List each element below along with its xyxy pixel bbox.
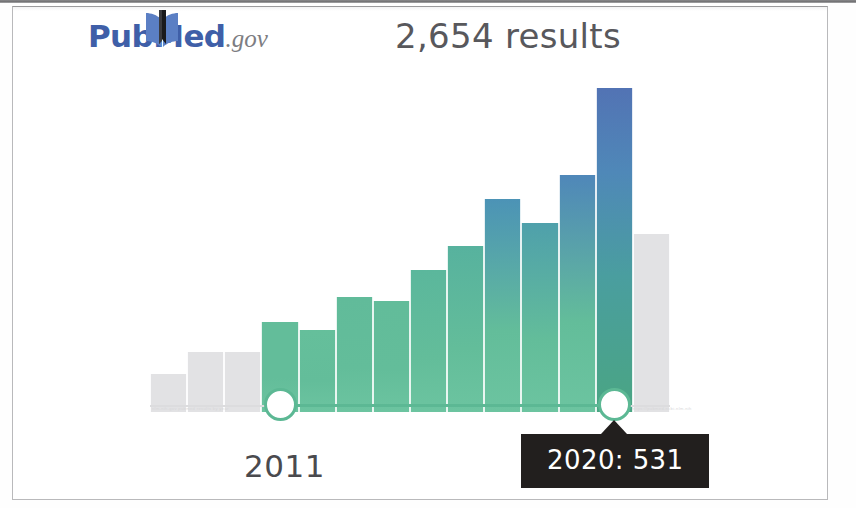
pubmed-logo-text: PubMed.gov bbox=[88, 21, 268, 52]
results-by-year-chart bbox=[150, 70, 670, 412]
screenshot-root: PubMed.gov 2,654 results nlm.nih.gov pub… bbox=[0, 0, 856, 508]
chart-bar[interactable] bbox=[521, 223, 558, 412]
bar-series bbox=[150, 70, 670, 412]
slider-start-year-label: 2011 bbox=[244, 448, 325, 484]
logo-gov-text: .gov bbox=[225, 25, 267, 52]
results-count-label: 2,654 results bbox=[395, 16, 621, 56]
tooltip-arrow-icon bbox=[601, 420, 627, 434]
chart-bar[interactable] bbox=[596, 88, 633, 412]
chart-bar[interactable] bbox=[299, 330, 336, 412]
chart-bar[interactable] bbox=[410, 270, 447, 412]
frame-shade bbox=[13, 7, 827, 11]
logo-pub-text: Pub bbox=[88, 18, 153, 54]
slider-value-tooltip: 2020: 531 bbox=[521, 434, 709, 488]
chart-bar[interactable] bbox=[559, 175, 596, 412]
logo-med-text: Med bbox=[153, 18, 225, 54]
chart-bar[interactable] bbox=[633, 234, 670, 412]
slider-handle-end[interactable] bbox=[598, 388, 631, 421]
slider-track-selected bbox=[280, 404, 614, 407]
year-range-slider[interactable] bbox=[150, 404, 670, 408]
slider-handle-start[interactable] bbox=[264, 388, 297, 421]
chart-bar[interactable] bbox=[484, 199, 521, 412]
chart-bar[interactable] bbox=[336, 297, 373, 412]
pubmed-logo[interactable]: PubMed.gov bbox=[88, 14, 268, 58]
chart-bar[interactable] bbox=[447, 246, 484, 412]
scan-line-artifact bbox=[0, 0, 856, 3]
chart-bar[interactable] bbox=[373, 301, 410, 412]
